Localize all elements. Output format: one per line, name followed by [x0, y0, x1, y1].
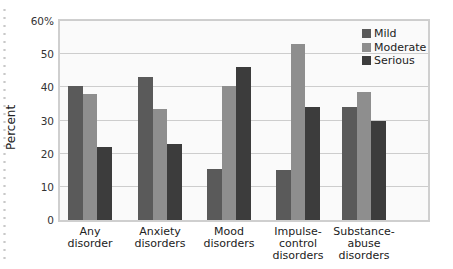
bar-mild — [68, 86, 83, 220]
x-tick-label: Anydisorder — [50, 226, 130, 250]
y-tick-label: 30 — [20, 115, 54, 127]
bar-moderate — [291, 44, 306, 220]
legend-swatch-icon — [362, 43, 371, 52]
y-tick-label: 20 — [20, 148, 54, 160]
legend-item: Moderate — [362, 41, 426, 55]
y-tick-label: 10 — [20, 181, 54, 193]
y-axis-label: Percent — [4, 105, 18, 150]
legend-item: Serious — [362, 54, 426, 68]
legend-item: Mild — [362, 27, 426, 41]
x-tick-label: Anxietydisorders — [120, 226, 200, 250]
bar-mild — [342, 107, 357, 220]
bar-serious — [371, 121, 386, 221]
y-tick-label: 0 — [20, 214, 54, 226]
bar-serious — [305, 107, 320, 220]
bar-mild — [138, 77, 153, 220]
legend-swatch-icon — [362, 56, 371, 65]
legend-label: Moderate — [374, 41, 426, 55]
bar-serious — [97, 147, 112, 220]
legend: MildModerateSerious — [362, 27, 426, 68]
y-tick-label: 50 — [20, 48, 54, 60]
bar-moderate — [222, 86, 237, 220]
legend-label: Serious — [374, 54, 415, 68]
legend-swatch-icon — [362, 29, 371, 38]
bar-serious — [236, 67, 251, 220]
gridline — [60, 20, 428, 21]
bar-moderate — [357, 92, 372, 220]
legend-label: Mild — [374, 27, 397, 41]
bar-mild — [276, 170, 291, 220]
x-tick-label: Substance-abusedisorders — [324, 226, 404, 262]
x-tick-label: Mooddisorders — [189, 226, 269, 250]
bar-mild — [207, 169, 222, 220]
bar-moderate — [83, 94, 98, 220]
y-tick-label: 40 — [20, 81, 54, 93]
y-tick-label: 60% — [20, 15, 54, 27]
bar-moderate — [153, 109, 168, 220]
bar-serious — [167, 144, 182, 220]
